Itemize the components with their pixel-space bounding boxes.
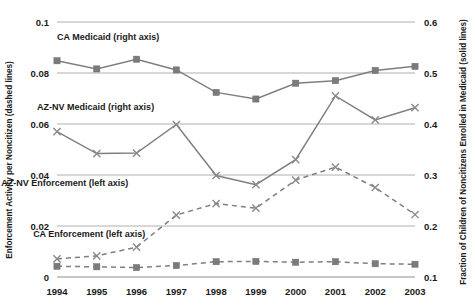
x-axis-tick-label: 1995: [86, 286, 108, 297]
y-axis-left-tick-label: 0.08: [31, 68, 50, 79]
data-point-marker: [173, 262, 179, 268]
data-point-marker: [372, 261, 378, 267]
data-point-marker: [173, 121, 180, 128]
data-point-marker: [173, 67, 179, 73]
data-point-marker: [133, 56, 139, 62]
y-axis-left-tick-label: 0.06: [31, 119, 50, 130]
data-point-marker: [412, 261, 418, 267]
series-annotations: CA Medicaid (right axis)AZ-NV Medicaid (…: [1, 32, 159, 240]
data-point-marker: [94, 66, 100, 72]
y-axis-left-title: Enforcement Activity per Noncitizen (das…: [5, 61, 14, 259]
x-axis-ticks: 1994199519961997199819992000200120022003: [46, 286, 425, 297]
data-point-marker: [173, 211, 180, 218]
data-point-marker: [213, 89, 219, 95]
data-point-marker: [332, 163, 339, 170]
data-point-marker: [133, 244, 140, 251]
series-0: [54, 56, 418, 102]
data-point-marker: [332, 259, 338, 265]
x-axis-tick-label: 1994: [46, 286, 68, 297]
data-point-marker: [411, 211, 418, 218]
line-chart: 00.020.040.060.080.1 0.10.20.30.40.50.6 …: [0, 0, 475, 306]
data-point-marker: [133, 264, 139, 270]
data-point-marker: [292, 156, 299, 163]
series-line: [57, 59, 415, 99]
x-axis-tick-label: 2003: [404, 286, 425, 297]
x-axis-tick-label: 1996: [126, 286, 147, 297]
data-point-marker: [54, 58, 60, 64]
data-point-marker: [253, 258, 259, 264]
y-axis-left-tick-label: 0.1: [36, 17, 50, 28]
x-axis-tick-label: 1997: [166, 286, 187, 297]
y-axis-right-title: Fraction of Children of Noncitizens Enro…: [459, 19, 468, 285]
data-point-marker: [372, 67, 378, 73]
data-point-marker: [213, 259, 219, 265]
data-point-marker: [412, 63, 418, 69]
data-point-marker: [332, 78, 338, 84]
series-3: [54, 258, 418, 270]
data-point-marker: [293, 80, 299, 86]
y-axis-right-tick-label: 0.6: [424, 17, 437, 28]
series-label-2: AZ-NV Enforcement (left axis): [1, 178, 128, 188]
data-point-marker: [292, 177, 299, 184]
x-axis-tick-label: 2001: [325, 286, 347, 297]
x-axis-tick-label: 1998: [206, 286, 227, 297]
y-axis-right-tick-label: 0.1: [424, 272, 438, 283]
y-axis-right-ticks: 0.10.20.30.40.50.6: [424, 17, 438, 283]
series-label-1: AZ-NV Medicaid (right axis): [37, 102, 154, 112]
y-axis-left-ticks: 00.020.040.060.080.1: [31, 17, 50, 283]
data-point-marker: [53, 128, 60, 135]
series-label-3: CA Enforcement (left axis): [33, 229, 145, 239]
series-line: [57, 261, 415, 267]
y-axis-right-tick-label: 0.4: [424, 119, 438, 130]
data-point-marker: [372, 184, 379, 191]
y-axis-right-tick-label: 0.2: [424, 221, 437, 232]
data-point-marker: [54, 263, 60, 269]
y-axis-right-tick-label: 0.3: [424, 170, 437, 181]
data-point-marker: [94, 264, 100, 270]
y-axis-left-tick-label: 0: [44, 272, 49, 283]
x-axis-tick-label: 2000: [285, 286, 306, 297]
data-point-marker: [253, 96, 259, 102]
x-axis-tick-label: 1999: [245, 286, 266, 297]
y-axis-right-tick-label: 0.5: [424, 68, 438, 79]
series-label-0: CA Medicaid (right axis): [57, 32, 159, 42]
chart-container: 00.020.040.060.080.1 0.10.20.30.40.50.6 …: [0, 0, 475, 306]
data-point-marker: [293, 259, 299, 265]
data-point-marker: [332, 92, 339, 99]
x-axis-tick-label: 2002: [365, 286, 386, 297]
